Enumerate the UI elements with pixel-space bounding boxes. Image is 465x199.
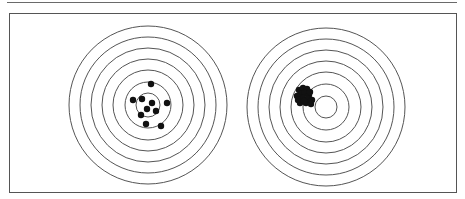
- shot-hole: [138, 112, 144, 118]
- shot-hole: [295, 97, 301, 103]
- target-ring-5: [291, 72, 361, 142]
- shot-hole: [149, 100, 155, 106]
- target-ring-1: [69, 26, 227, 184]
- shot-hole: [148, 81, 154, 87]
- target-left-scattered: [69, 26, 227, 184]
- shot-hole: [130, 97, 136, 103]
- target-ring-3: [269, 50, 383, 164]
- target-ring-2: [258, 39, 394, 175]
- target-ring-4: [280, 61, 372, 153]
- shot-hole: [143, 121, 149, 127]
- shot-hole: [307, 89, 313, 95]
- shot-hole: [139, 96, 145, 102]
- target-ring-6: [125, 82, 171, 128]
- shot-hole: [158, 123, 164, 129]
- shot-hole: [301, 98, 307, 104]
- target-ring-2: [80, 37, 216, 173]
- shot-hole: [308, 101, 314, 107]
- shot-hole: [164, 100, 170, 106]
- target-ring-3: [91, 48, 205, 162]
- shot-hole: [153, 108, 159, 114]
- target-ring-7: [315, 96, 337, 118]
- target-ring-5: [113, 70, 183, 140]
- target-ring-1: [247, 28, 405, 186]
- shot-hole: [144, 106, 150, 112]
- target-ring-4: [102, 59, 194, 151]
- targets-figure: [0, 0, 465, 199]
- target-right-clustered: [247, 28, 405, 186]
